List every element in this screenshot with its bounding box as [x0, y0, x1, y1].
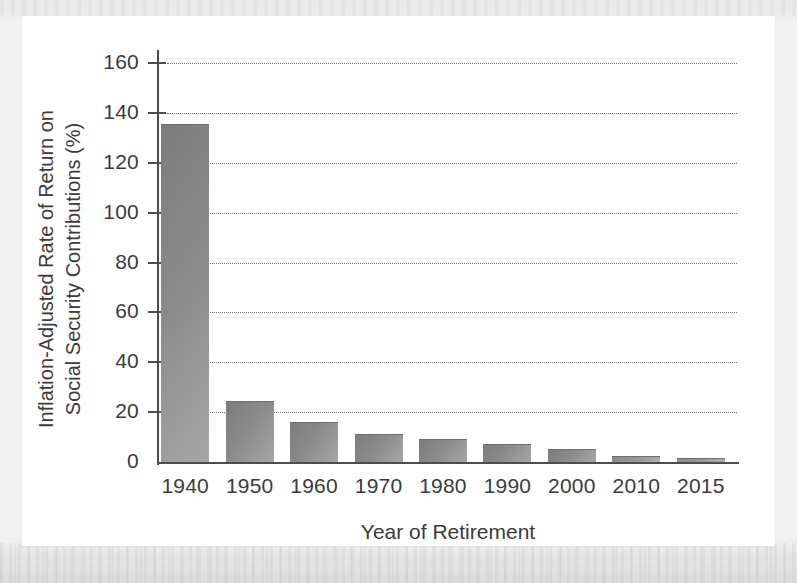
- bar-2000: [548, 449, 596, 462]
- y-tick-label: 120: [79, 150, 139, 174]
- bar-1950: [226, 401, 274, 462]
- y-tick-label: 60: [79, 299, 139, 323]
- bar-1970: [355, 434, 403, 462]
- y-tick-label: 80: [79, 250, 139, 274]
- bar-2010: [612, 456, 660, 462]
- y-axis-title-line-1: Inflation-Adjusted Rate of Return on: [33, 39, 60, 499]
- y-tick-label: 40: [79, 349, 139, 373]
- y-axis-title: Inflation-Adjusted Rate of Return on Soc…: [33, 39, 87, 499]
- y-tick-label: 140: [79, 100, 139, 124]
- y-tick-label: 0: [79, 449, 139, 473]
- x-axis-line: [157, 462, 739, 464]
- bars-group: [157, 50, 739, 462]
- bar-1980: [419, 439, 467, 462]
- y-tick-label: 20: [79, 399, 139, 423]
- bar-1940: [161, 124, 209, 462]
- bar-1960: [290, 422, 338, 462]
- bar-2015: [677, 458, 725, 462]
- y-tick-label: 160: [79, 50, 139, 74]
- y-axis-title-line-2: Social Security Contributions (%): [60, 39, 87, 499]
- x-axis-title: Year of Retirement: [157, 520, 739, 544]
- y-tick-label: 100: [79, 200, 139, 224]
- bar-chart: 020406080100120140160 194019501960197019…: [0, 0, 797, 583]
- x-tick-label-2015: 2015: [656, 474, 746, 498]
- figure-page: 020406080100120140160 194019501960197019…: [0, 0, 797, 583]
- bar-1990: [483, 444, 531, 462]
